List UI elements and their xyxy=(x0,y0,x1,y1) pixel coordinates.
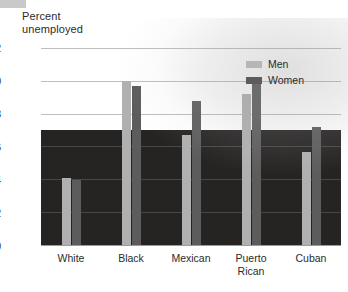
y-axis-tick-label: 0 xyxy=(0,240,1,252)
bar-men-white xyxy=(62,178,71,246)
bar-women-cuban xyxy=(312,127,321,246)
unemployment-bar-chart: Percent unemployed 024681012 WhiteBlackM… xyxy=(0,0,348,292)
x-axis-tick-label: Puerto Rican xyxy=(221,252,281,277)
bar-men-black xyxy=(122,81,131,246)
bar-men-cuban xyxy=(302,152,311,246)
legend-label: Men xyxy=(268,58,288,70)
x-axis-tick-label: Black xyxy=(101,252,161,265)
y-axis-tick-label: 4 xyxy=(0,174,1,186)
y-axis-tick-label: 2 xyxy=(0,207,1,219)
legend-swatch-women xyxy=(246,77,262,84)
x-axis-baseline xyxy=(41,245,341,246)
bar-women-white xyxy=(72,180,81,246)
x-axis-tick-label: Cuban xyxy=(281,252,341,265)
legend-item: Men xyxy=(246,57,304,71)
legend-label: Women xyxy=(268,74,304,86)
scan-artifact-bottom-edge xyxy=(0,286,348,292)
bar-women-black xyxy=(132,86,141,246)
gridline xyxy=(41,48,341,49)
y-axis-tick-label: 12 xyxy=(0,42,1,54)
x-axis-tick-label: Mexican xyxy=(161,252,221,265)
chart-legend: MenWomen xyxy=(246,57,304,89)
y-axis-tick-label: 6 xyxy=(0,141,1,153)
legend-swatch-men xyxy=(246,61,262,68)
y-axis-title: Percent unemployed xyxy=(22,10,83,36)
y-axis-tick-label: 8 xyxy=(0,108,1,120)
bar-women-mexican xyxy=(192,101,201,246)
legend-item: Women xyxy=(246,73,304,87)
scan-artifact-corner xyxy=(0,0,26,8)
bar-men-puerto-rican xyxy=(242,94,251,246)
x-axis-tick-label: White xyxy=(41,252,101,265)
y-axis-tick-label: 10 xyxy=(0,75,1,87)
bar-women-puerto-rican xyxy=(252,81,261,246)
bar-men-mexican xyxy=(182,135,191,246)
